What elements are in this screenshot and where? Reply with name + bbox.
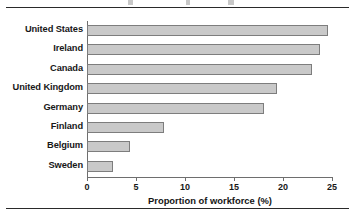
bar: [87, 44, 320, 55]
top-divider-rule: [6, 7, 349, 8]
cropped-title-remnant: [128, 0, 133, 5]
bar-row: [87, 79, 332, 98]
bar-row: [87, 99, 332, 118]
cropped-title-remnant: [228, 0, 234, 5]
plot-area: [87, 21, 332, 176]
bar: [87, 103, 264, 114]
bar: [87, 141, 130, 152]
x-tick-mark: [332, 177, 333, 181]
category-label: United States: [0, 24, 83, 34]
bar-row: [87, 157, 332, 176]
x-tick-mark: [185, 177, 186, 181]
bar: [87, 122, 164, 133]
category-label: Ireland: [0, 43, 83, 53]
category-label: Canada: [0, 63, 83, 73]
x-tick-label: 15: [219, 182, 249, 192]
bar: [87, 64, 312, 75]
x-tick-mark: [234, 177, 235, 181]
bar-row: [87, 118, 332, 137]
category-label: Finland: [0, 121, 83, 131]
x-tick-label: 25: [317, 182, 347, 192]
bar-row: [87, 137, 332, 156]
bar-row: [87, 40, 332, 59]
bar-row: [87, 21, 332, 40]
category-label: Belgium: [0, 140, 83, 150]
bar: [87, 161, 113, 172]
bottom-divider-rule: [6, 208, 349, 209]
cropped-title-remnant: [186, 0, 190, 5]
category-label: Sweden: [0, 160, 83, 170]
x-axis-title: Proportion of workforce (%): [87, 195, 333, 206]
x-tick-label: 10: [170, 182, 200, 192]
bar-row: [87, 60, 332, 79]
category-label: United Kingdom: [0, 82, 83, 92]
x-tick-mark: [136, 177, 137, 181]
bar: [87, 25, 328, 36]
bar: [87, 83, 277, 94]
x-tick-mark: [283, 177, 284, 181]
x-axis-line: [87, 177, 333, 178]
bar-chart-figure: United StatesIrelandCanadaUnited Kingdom…: [0, 0, 355, 219]
x-tick-mark: [87, 177, 88, 181]
x-tick-label: 5: [121, 182, 151, 192]
category-label: Germany: [0, 102, 83, 112]
x-tick-label: 20: [268, 182, 298, 192]
x-tick-label: 0: [72, 182, 102, 192]
